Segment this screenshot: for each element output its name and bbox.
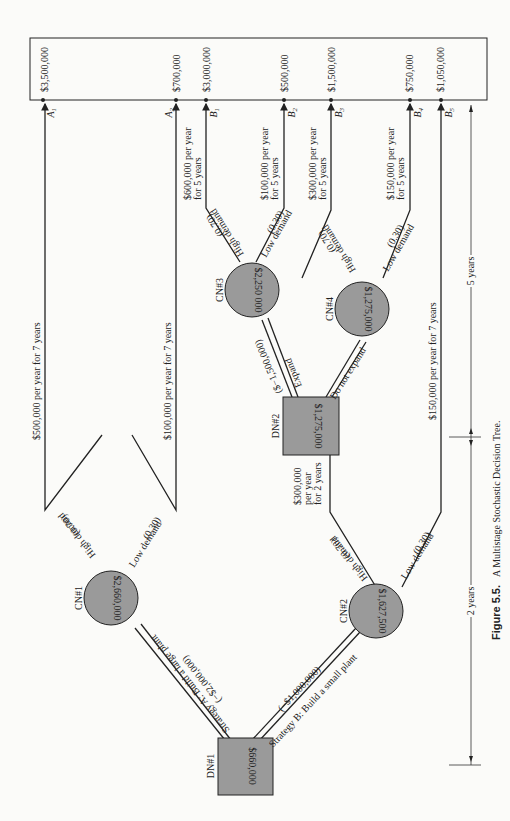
chance-node-2 — [349, 584, 403, 638]
label-b4: B4 — [412, 108, 425, 118]
chance-node-3 — [225, 263, 279, 317]
decision-tree-diagram: $3,500,000 $700,000 $3,000,000 $500,000 … — [0, 0, 510, 821]
cn4-label: CN#4 — [324, 297, 335, 321]
outcome-b2-value: $500,000 — [279, 55, 290, 93]
payoff-b4-l2: for 5 years — [395, 157, 406, 200]
cn1-label: CN#1 — [73, 586, 84, 610]
chance-node-4 — [335, 282, 389, 336]
outcome-values: $3,500,000 $700,000 $3,000,000 $500,000 … — [39, 47, 446, 92]
dn1-value: $660,000 — [247, 747, 258, 785]
cn1-value: $2,660,000 — [112, 576, 123, 621]
dn1-label: DN#1 — [205, 754, 216, 778]
payoff-b3-l2: for 5 years — [317, 157, 328, 200]
decision-node-1 — [218, 738, 273, 795]
outcome-labels: A1 A2 B1 B2 B3 B4 B5 — [45, 108, 456, 119]
label-b1: B1 — [208, 108, 221, 118]
label-b3: B3 — [333, 108, 346, 118]
payoff-a1: $500,000 per year for 7 years — [31, 322, 42, 440]
label-a2: A2 — [163, 108, 176, 119]
branch-lines — [45, 104, 441, 742]
outcome-b5-value: $1,050,000 — [435, 47, 446, 92]
payoff-dn2-l3: for 2 years — [312, 462, 323, 505]
outcome-b1-value: $3,000,000 — [201, 47, 212, 92]
payoff-b1-l2: for 5 years — [192, 157, 203, 200]
cn3-value: $2,250 000 — [253, 268, 264, 313]
no-expand-label: Do not expand — [327, 345, 368, 401]
outcome-box — [30, 38, 487, 100]
outcome-b4-value: $750,000 — [404, 55, 415, 93]
figure-caption: Figure 5.5. A Multistage Stochastic Deci… — [486, 421, 503, 640]
outcome-b3-value: $1,500,000 — [326, 47, 337, 92]
label-b5: B5 — [443, 108, 456, 118]
expand-label: Expand — [282, 357, 304, 389]
label-b2: B2 — [286, 108, 299, 118]
dn2-value: $1,275,000 — [313, 404, 324, 449]
cn4-value: $1,275,000 — [363, 287, 374, 332]
payoff-b5: $150,000 per year for 7 years — [427, 302, 438, 420]
caption-text: A Multistage Stochastic Decision Tree. — [491, 421, 502, 577]
cn2-value: $1,627,500 — [377, 589, 388, 634]
chance-node-1 — [84, 571, 138, 625]
caption: Figure 5.5. A Multistage Stochastic Deci… — [486, 421, 503, 640]
outcome-a1-value: $3,500,000 — [39, 47, 50, 92]
timeline-second-period: 5 years — [465, 257, 476, 286]
cn2-label: CN#2 — [338, 599, 349, 623]
outcome-a2-value: $700,000 — [171, 55, 182, 93]
decision-node-2 — [283, 397, 339, 455]
cn3-label: CN#3 — [214, 278, 225, 302]
dn2-label: DN#2 — [270, 414, 281, 438]
caption-label: Figure 5.5. — [490, 585, 502, 640]
strategy-a-label: Strategy A: Build a large plant — [148, 633, 232, 736]
timeline-first-period: 2 years — [465, 587, 476, 616]
timeline: 2 years 5 years — [449, 105, 481, 765]
label-a1: A1 — [45, 108, 58, 119]
payoff-a2: $100,000 per year for 7 years — [162, 322, 173, 440]
payoff-b2-l2: for 5 years — [269, 157, 280, 200]
